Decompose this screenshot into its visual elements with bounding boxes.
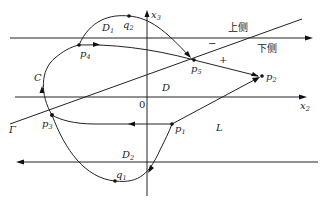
curve-D2-boundary xyxy=(52,115,172,181)
point-p4 xyxy=(77,43,81,47)
p2-label: p2 xyxy=(266,71,277,84)
point-p1 xyxy=(170,122,174,126)
p5-label: p5 xyxy=(191,63,202,76)
trajectory-p1-p3 xyxy=(52,115,172,127)
curve-D1-boundary xyxy=(79,16,191,58)
p1-label: p1 xyxy=(175,123,186,136)
trajectory-p4-p5-p2 xyxy=(79,42,259,77)
point-p5 xyxy=(192,58,196,62)
curve-C xyxy=(40,45,80,115)
q1-label: q1 xyxy=(116,169,127,182)
gamma-label: Γ xyxy=(8,124,17,135)
point-p2 xyxy=(260,74,264,78)
D2-label: D2 xyxy=(121,149,134,162)
phase-diagram: x3 上侧 下侧 Γ x2 0 L D1 C xyxy=(0,0,322,201)
D1-label: D1 xyxy=(101,22,114,35)
q2-label: q2 xyxy=(123,19,134,32)
plus-sign: + xyxy=(219,54,227,65)
point-q2 xyxy=(127,14,131,18)
curve-C-label: C xyxy=(34,72,42,83)
upper-horizontal-line xyxy=(10,36,313,41)
upper-side-label: 上侧 xyxy=(228,21,248,33)
origin-label: 0 xyxy=(139,99,145,110)
x3-axis-label: x3 xyxy=(151,9,161,22)
x2-axis xyxy=(15,95,307,100)
p3-label: p3 xyxy=(42,118,53,131)
x2-axis-label: x2 xyxy=(300,100,310,113)
curve-L xyxy=(172,77,260,124)
minus-sign: − xyxy=(208,38,216,49)
curve-L-label: L xyxy=(215,122,223,133)
gamma-line xyxy=(10,19,302,124)
point-p3 xyxy=(50,113,54,117)
lower-horizontal-line xyxy=(16,160,318,165)
lower-side-label: 下侧 xyxy=(257,42,277,54)
p4-label: p4 xyxy=(80,48,91,61)
D-label: D xyxy=(161,82,170,93)
